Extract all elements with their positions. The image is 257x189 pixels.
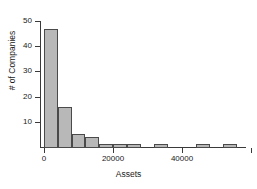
histogram-bar	[72, 134, 86, 148]
histogram-bar	[44, 29, 58, 148]
histogram-bar	[196, 144, 210, 148]
histogram-bar	[154, 144, 168, 148]
x-axis-title: Assets	[0, 170, 257, 179]
y-axis-title: # of Companies	[8, 21, 17, 101]
y-axis-tick	[35, 71, 40, 72]
histogram-bar	[58, 107, 72, 148]
x-axis-tick	[182, 148, 183, 153]
x-axis-tick	[44, 148, 45, 153]
x-axis-tick-label: 40000	[171, 155, 193, 163]
histogram-bar	[85, 137, 99, 148]
histogram-bar	[223, 144, 237, 148]
x-axis-tick-label: 20000	[102, 155, 124, 163]
histogram-bar	[127, 144, 141, 148]
x-axis-tick	[251, 148, 252, 153]
y-axis-tick	[35, 122, 40, 123]
histogram-chart: 1020304050 02000040000 Assets # of Compa…	[0, 0, 257, 189]
y-axis-tick-label: 50	[2, 17, 32, 25]
y-axis-tick	[35, 97, 40, 98]
histogram-bar	[99, 144, 113, 148]
y-axis-tick	[35, 21, 40, 22]
x-axis-tick-label: 0	[42, 155, 46, 163]
y-axis-tick-label: 20	[2, 93, 32, 101]
y-axis-tick-label: 10	[2, 118, 32, 126]
histogram-bar	[113, 144, 127, 148]
x-axis-tick	[113, 148, 114, 153]
y-axis-line	[40, 21, 41, 148]
y-axis-tick	[35, 46, 40, 47]
